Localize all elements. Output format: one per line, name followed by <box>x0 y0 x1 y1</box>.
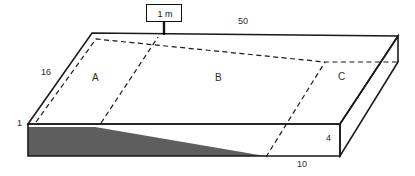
divider-a-b <box>101 37 158 123</box>
diagram-canvas: 1 m 50 16 1 4 10 A B C <box>0 0 415 176</box>
thickness-callout-box: 1 m <box>146 4 182 22</box>
dimension-top-length: 50 <box>238 17 248 26</box>
shaded-wedge <box>28 127 265 156</box>
block-diagram-svg <box>0 0 415 176</box>
dimension-left-slope: 16 <box>41 68 51 77</box>
thickness-callout-label: 1 m <box>147 5 183 23</box>
region-label-c: C <box>338 72 345 82</box>
divider-b-c <box>266 62 325 157</box>
region-label-a: A <box>92 73 99 83</box>
right-side-face <box>340 36 398 156</box>
dimension-bottom-length: 10 <box>297 160 307 169</box>
region-label-b: B <box>215 73 222 83</box>
dimension-right-height: 4 <box>326 134 331 143</box>
dimension-left-height: 1 <box>17 119 22 128</box>
